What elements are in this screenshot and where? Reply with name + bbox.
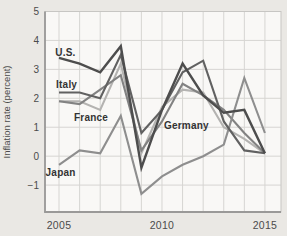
x-tick-label-2005: 2005 — [47, 219, 72, 231]
series-label-japan: Japan — [46, 167, 76, 178]
series-label-france: France — [74, 112, 108, 123]
y-tick-label-2: 2 — [33, 93, 39, 104]
inflation-chart-svg: 543210−1200520102015U.S.ItalyFranceGerma… — [0, 0, 287, 236]
y-axis-title: Inflation rate (percent) — [1, 66, 12, 159]
x-tick-label-2015: 2015 — [253, 219, 278, 231]
x-tick-label-2010: 2010 — [150, 219, 175, 231]
inflation-chart-figure: 543210−1200520102015U.S.ItalyFranceGerma… — [0, 0, 287, 236]
y-tick-label--1: −1 — [28, 180, 40, 191]
y-tick-label-5: 5 — [33, 6, 39, 17]
y-tick-label-3: 3 — [33, 64, 39, 75]
series-label-us: U.S. — [55, 47, 75, 58]
y-tick-label-0: 0 — [33, 151, 39, 162]
y-tick-label-4: 4 — [33, 35, 39, 46]
series-label-germany: Germany — [164, 120, 209, 131]
series-label-italy: Italy — [56, 79, 77, 90]
y-tick-label-1: 1 — [33, 122, 39, 133]
